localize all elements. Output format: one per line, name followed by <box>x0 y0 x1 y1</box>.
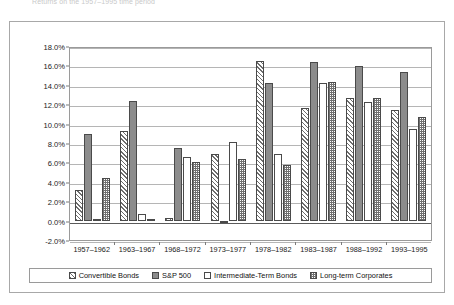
legend-label: Long-term Corporates <box>320 271 392 280</box>
y-axis-tick-label: -2.0% <box>19 237 65 246</box>
bar <box>256 61 264 221</box>
y-axis-tick-label: 16.0% <box>19 62 65 71</box>
bar <box>192 162 200 220</box>
bar <box>400 72 408 220</box>
bar <box>84 134 92 220</box>
bar <box>391 110 399 221</box>
y-axis-tick-label: 12.0% <box>19 101 65 110</box>
x-axis-label: 1988–1992 <box>341 244 386 258</box>
bar <box>409 129 417 220</box>
legend-swatch-icon <box>69 272 76 279</box>
y-axis-tick-label: 14.0% <box>19 81 65 90</box>
bar-group <box>386 48 431 240</box>
plot-area-wrapper: -2.0%0.0%2.0%4.0%6.0%8.0%10.0%12.0%14.0%… <box>69 47 432 241</box>
bar-groups <box>70 48 431 240</box>
bar <box>120 131 128 220</box>
y-axis-tickmark <box>66 202 69 203</box>
y-axis-tickmark <box>66 163 69 164</box>
chart-frame: -2.0%0.0%2.0%4.0%6.0%8.0%10.0%12.0%14.0%… <box>9 21 445 293</box>
bar <box>346 98 354 220</box>
bar <box>220 221 228 223</box>
legend-item[interactable]: Convertible Bonds <box>69 271 139 280</box>
x-axis-label: 1973–1977 <box>205 244 250 258</box>
legend-item[interactable]: Long-term Corporates <box>310 271 392 280</box>
y-axis-tickmark <box>66 124 69 125</box>
bar <box>418 117 426 221</box>
bar-group <box>296 48 341 240</box>
top-caption: Returns on the 1957–1995 time period <box>32 0 332 6</box>
bar <box>373 98 381 220</box>
plot-area <box>69 47 432 241</box>
chart-legend: Convertible BondsS&P 500Intermediate-Ter… <box>29 268 432 283</box>
y-axis-tickmark <box>66 47 69 48</box>
bar <box>328 82 336 221</box>
bar <box>310 62 318 221</box>
x-axis-labels: 1957–19621963–19671968–19721973–19771978… <box>69 244 432 258</box>
bar <box>283 165 291 220</box>
bar <box>165 218 173 221</box>
legend-item[interactable]: Intermediate-Term Bonds <box>204 271 297 280</box>
legend-label: S&P 500 <box>162 271 191 280</box>
y-axis-tickmark <box>66 66 69 67</box>
y-axis-tickmark <box>66 221 69 222</box>
y-axis-tick-label: 4.0% <box>19 178 65 187</box>
bar <box>93 219 101 221</box>
x-axis-label: 1957–1962 <box>69 244 114 258</box>
legend-swatch-icon <box>310 272 317 279</box>
bar <box>301 108 309 221</box>
y-axis-tickmark <box>66 105 69 106</box>
x-axis-label: 1963–1967 <box>114 244 159 258</box>
bar <box>183 157 191 221</box>
x-axis-label: 1978–1982 <box>251 244 296 258</box>
chart-screenshot: Returns on the 1957–1995 time period -2.… <box>0 0 454 305</box>
bar <box>138 214 146 221</box>
bar <box>102 178 110 221</box>
bar <box>364 102 372 220</box>
x-axis-label: 1993–1995 <box>387 244 432 258</box>
bar <box>129 101 137 220</box>
bar <box>265 83 273 221</box>
bar-group <box>115 48 160 240</box>
bar <box>355 66 363 220</box>
legend-swatch-icon <box>204 272 211 279</box>
y-axis-tickmark <box>66 182 69 183</box>
legend-swatch-icon <box>152 272 159 279</box>
legend-label: Convertible Bonds <box>79 271 139 280</box>
bar <box>238 159 246 221</box>
bar-group <box>205 48 250 240</box>
bar <box>229 142 237 221</box>
bar <box>75 190 83 221</box>
y-axis-tick-label: 0.0% <box>19 217 65 226</box>
bar <box>211 154 219 221</box>
y-axis-tickmark <box>66 85 69 86</box>
y-axis-tick-label: 2.0% <box>19 198 65 207</box>
legend-item[interactable]: S&P 500 <box>152 271 191 280</box>
y-axis-tick-label: 18.0% <box>19 43 65 52</box>
y-axis-tick-label: 10.0% <box>19 120 65 129</box>
bar <box>174 148 182 221</box>
y-axis-tick-label: 8.0% <box>19 140 65 149</box>
bar-group <box>160 48 205 240</box>
bar <box>274 154 282 221</box>
x-axis-label: 1983–1987 <box>296 244 341 258</box>
y-axis-tick-label: 6.0% <box>19 159 65 168</box>
legend-label: Intermediate-Term Bonds <box>214 271 297 280</box>
bar <box>319 83 327 221</box>
x-axis-label: 1968–1972 <box>160 244 205 258</box>
bar-group <box>70 48 115 240</box>
bar-group <box>251 48 296 240</box>
bar-group <box>341 48 386 240</box>
y-axis-tickmark <box>66 144 69 145</box>
bar <box>147 219 155 221</box>
